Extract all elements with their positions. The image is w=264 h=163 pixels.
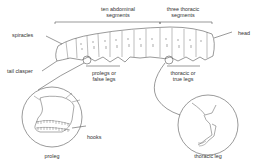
label-tail-clasper: tail clasper [7, 68, 33, 74]
thoracic-bracket [160, 22, 212, 24]
hooks-leader [72, 126, 86, 128]
thoracic-leg-detail-circle [178, 95, 238, 155]
label-line: segments [92, 12, 144, 18]
label-thoracic-segments: three thoracic segments [158, 6, 208, 18]
label-hooks: hooks [87, 134, 101, 140]
label-line: false legs [86, 76, 122, 82]
abdominal-bracket [55, 22, 160, 24]
label-head: head [238, 30, 250, 36]
caterpillar-diagram: ten abdominal segments three thoracic se… [0, 0, 264, 163]
label-true-legs: thoracic or true legs [165, 70, 201, 82]
label-thoracic-leg: thoracic leg [188, 153, 228, 159]
label-abdominal-segments: ten abdominal segments [92, 6, 144, 18]
label-line: segments [158, 12, 208, 18]
label-prolegs: prolegs or false legs [86, 70, 122, 82]
label-spiracles: spiracles [12, 32, 33, 38]
label-proleg: proleg [37, 153, 67, 159]
caterpillar-illustration [0, 0, 264, 163]
label-line: true legs [165, 76, 201, 82]
caterpillar-body [56, 27, 215, 62]
